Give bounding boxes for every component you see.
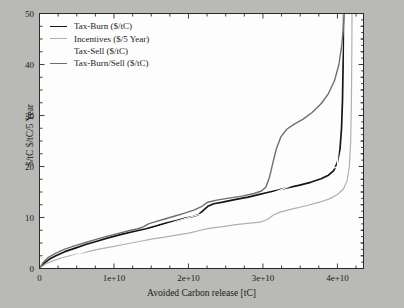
legend-swatch-0 [50,26,67,27]
legend-label-0: Tax-Burn ($/tC) [74,21,132,31]
legend-label-2: Tax-Sell ($/tC) [74,46,128,56]
legend-item-0: Tax-Burn ($/tC) [50,20,200,32]
legend-item-3: Tax-Burn/Sell ($/tC) [50,57,200,69]
y-axis-title: $/tC $/tC/5 Year [25,50,35,220]
x-tick-label-3: 3e+10 [252,273,275,283]
legend-swatch-2 [50,50,67,51]
x-tick-label-2: 2e+10 [177,273,200,283]
legend-label-1: Incentives ($/5 Year) [74,34,149,44]
legend-label-3: Tax-Burn/Sell ($/tC) [74,58,149,68]
x-tick-label-1: 1e+10 [103,273,126,283]
legend-item-1: Incentives ($/5 Year) [50,32,200,44]
x-axis-title: Avoided Carbon release [tC] [39,288,364,298]
chart-legend: Tax-Burn ($/tC)Incentives ($/5 Year)Tax-… [50,20,200,70]
chart-figure: 01020304050 01e+102e+103e+104e+10 Avoide… [0,0,404,308]
y-tick-label-0: 0 [8,264,34,274]
x-tick-label-4: 4e+10 [326,273,349,283]
legend-swatch-3 [50,63,67,64]
legend-swatch-1 [50,38,67,39]
y-tick-label-5: 50 [8,9,34,19]
x-tick-label-0: 0 [37,273,42,283]
legend-item-2: Tax-Sell ($/tC) [50,45,200,57]
